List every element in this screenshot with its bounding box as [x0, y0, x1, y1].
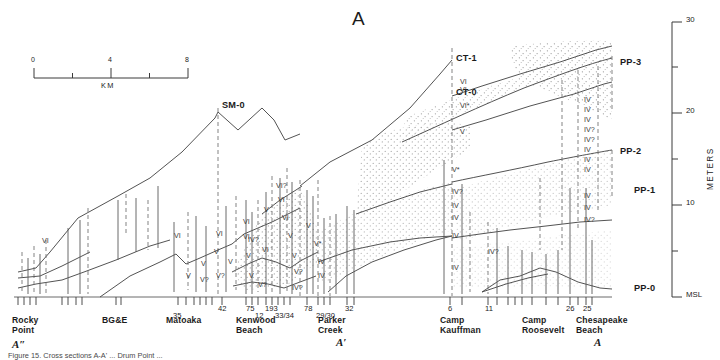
roman-annotation: IV: [584, 192, 591, 200]
site-label-matoaka: Matoaka: [166, 316, 201, 326]
roman-annotation: V: [306, 222, 311, 230]
roman-annotation: V: [228, 258, 233, 266]
roman-annotation: VI: [174, 232, 181, 240]
roman-annotation: VI: [262, 246, 269, 254]
roman-annotation: V: [201, 260, 206, 268]
roman-annotation: V: [460, 128, 465, 136]
roman-annotation: IV?: [584, 216, 595, 224]
roman-annotation: IV: [452, 264, 459, 272]
site-label-camp-roosevelt: Camp Roosevelt: [522, 316, 564, 335]
roman-annotation: IV: [584, 146, 591, 154]
roman-annotation: IV?: [248, 236, 259, 244]
borehole-number: 26: [566, 305, 574, 314]
roman-annotation: VI?: [276, 182, 287, 190]
borehole-number: 25: [583, 305, 591, 314]
roman-annotation: IV: [584, 116, 591, 124]
roman-annotation: V?: [216, 272, 225, 280]
scale-tick-0: 0: [31, 56, 35, 64]
roman-annotation: V: [264, 206, 269, 214]
roman-annotation: V: [186, 272, 191, 280]
roman-annotation: VI*: [460, 102, 470, 110]
roman-annotation: V?: [258, 281, 267, 289]
roman-annotation: VI: [460, 86, 467, 94]
borehole-number: 42: [218, 305, 226, 314]
scale-bar: [34, 68, 188, 78]
roman-annotation: IV: [584, 106, 591, 114]
roman-annotation: IV: [584, 166, 591, 174]
roman-annotation: IV: [318, 272, 325, 280]
meters-axis: [672, 22, 682, 297]
page-title: A: [352, 8, 365, 29]
unit-marker-pp-3: PP-3: [620, 57, 641, 67]
scale-unit-label: KM: [101, 82, 115, 90]
scale-tick-4: 4: [108, 56, 112, 64]
roman-annotation: IV?: [584, 136, 595, 144]
roman-annotation: V?: [200, 276, 209, 284]
yaxis-label-30: 30: [686, 16, 695, 25]
roman-annotation: VI: [243, 218, 250, 226]
roman-annotation: V*: [452, 166, 460, 174]
section-marker-right: A: [594, 336, 601, 348]
site-label-camp-kauffman: Camp Kauffman: [440, 316, 481, 335]
section-marker-left: A″: [12, 338, 25, 350]
figure-canvas: A 0 4 8 KM SM-0 CT-1 CT-0 PP-3 PP-2 PP-1…: [0, 0, 720, 360]
roman-annotation: V: [249, 272, 254, 280]
site-label-rocky-point: Rocky Point: [12, 316, 39, 335]
site-label-bge: BG&E: [102, 316, 127, 326]
yaxis-label-msl: MSL: [686, 291, 702, 300]
scale-tick-8: 8: [185, 56, 189, 64]
roman-annotation: VI: [282, 214, 289, 222]
roman-annotation: IV: [452, 232, 459, 240]
unit-marker-pp-1: PP-1: [634, 185, 655, 195]
roman-annotation: V: [214, 248, 219, 256]
site-label-chesapeake-beach: Chesapeake Beach: [576, 316, 628, 335]
roman-annotation: IV: [584, 156, 591, 164]
roman-annotation: VI: [216, 230, 223, 238]
roman-annotation: IV: [318, 258, 325, 266]
roman-annotation: IV?: [584, 126, 595, 134]
roman-annotation: V: [246, 252, 251, 260]
borehole-number: 33/34: [275, 312, 294, 321]
stipple-regions: [233, 40, 612, 290]
roman-annotation: V: [288, 232, 293, 240]
roman-annotation: IV: [452, 202, 459, 210]
unit-marker-ct-1: CT-1: [456, 53, 477, 63]
roman-annotation: V: [292, 252, 297, 260]
section-marker-middle: A′: [336, 336, 346, 348]
borehole-number: 75: [246, 305, 254, 314]
borehole-number: 12: [255, 312, 263, 321]
roman-annotation: V*: [314, 240, 322, 248]
borehole-number: 6: [448, 305, 452, 314]
roman-annotation: IV: [584, 96, 591, 104]
yaxis-label-20: 20: [686, 107, 695, 116]
borehole-number: 35: [173, 312, 181, 321]
unit-marker-pp-0: PP-0: [634, 283, 655, 293]
unit-marker-sm-0: SM-0: [222, 100, 245, 110]
roman-annotation: IV?: [488, 248, 499, 256]
roman-annotation: IV?: [292, 284, 303, 292]
borehole-number: 78: [304, 305, 312, 314]
borehole-number: 32: [345, 305, 353, 314]
yaxis-title: METERS: [706, 147, 715, 190]
roman-annotation: VI: [278, 196, 285, 204]
roman-annotation: IV: [584, 204, 591, 212]
cross-section-drawing: [0, 0, 720, 360]
yaxis-label-10: 10: [686, 199, 695, 208]
figure-caption: Figure 15. Cross sections A-A' ... Drum …: [8, 352, 163, 360]
borehole-number: 11: [485, 305, 493, 314]
roman-annotation: IV: [452, 214, 459, 222]
roman-annotation: VI: [42, 237, 49, 245]
borehole-number: 29/30: [316, 312, 335, 321]
roman-annotation: V?: [294, 268, 303, 276]
roman-annotation: IV?: [452, 188, 463, 196]
unit-marker-pp-2: PP-2: [620, 146, 641, 156]
